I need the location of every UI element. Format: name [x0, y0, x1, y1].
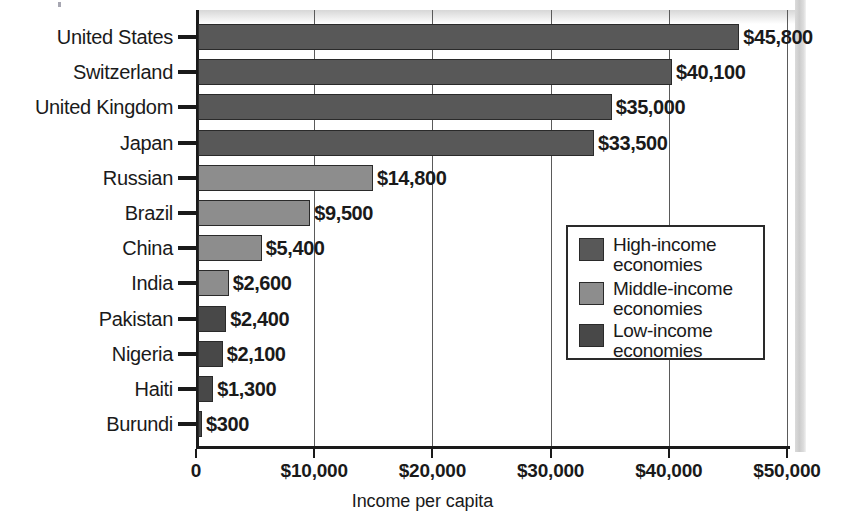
bar-value-burundi: $300: [206, 411, 249, 437]
category-tick: [178, 352, 197, 356]
x-tick-label-5: $50,000: [753, 460, 820, 482]
bar-nigeria: [198, 341, 223, 367]
legend-swatch-low-income-icon: [579, 324, 604, 347]
category-tick: [178, 422, 197, 426]
category-label-japan: Japan: [120, 130, 173, 156]
x-tick-5: [786, 449, 788, 458]
bar-row: Japan$33,500: [0, 130, 845, 156]
x-tick-label-0: 0: [191, 460, 201, 482]
bar-value-pakistan: $2,400: [230, 306, 289, 332]
bar-china: [198, 235, 262, 261]
category-tick: [178, 387, 197, 391]
bar-row: Burundi$300: [0, 411, 845, 437]
bar-united-states: [198, 24, 739, 50]
category-label-haiti: Haiti: [134, 376, 173, 402]
category-tick: [178, 70, 197, 74]
category-tick: [178, 281, 197, 285]
x-axis-line: [196, 446, 790, 449]
category-label-pakistan: Pakistan: [99, 306, 173, 332]
category-label-switzerland: Switzerland: [73, 59, 173, 85]
legend-label-high-income: High-income economies: [613, 235, 716, 275]
category-label-china: China: [122, 235, 173, 261]
legend-item-high-income: High-income economies: [579, 235, 765, 275]
x-tick-4: [668, 449, 670, 458]
category-tick: [178, 35, 197, 39]
legend-label-low-income: Low-income economies: [613, 321, 712, 361]
bar-value-united-kingdom: $35,000: [616, 94, 686, 120]
bar-value-china: $5,400: [266, 235, 325, 261]
bar-row: Haiti$1,300: [0, 376, 845, 402]
category-label-russian: Russian: [103, 165, 173, 191]
bar-brazil: [198, 200, 310, 226]
x-tick-label-2: $20,000: [399, 460, 466, 482]
x-tick-label-3: $30,000: [517, 460, 584, 482]
bar-value-japan: $33,500: [598, 130, 668, 156]
category-tick: [178, 141, 197, 145]
x-tick-3: [550, 449, 552, 458]
scan-artifact-top: [196, 10, 796, 24]
income-per-capita-bar-chart: 0$10,000$20,000$30,000$40,000$50,000 Uni…: [0, 0, 845, 520]
category-label-united-kingdom: United Kingdom: [35, 94, 173, 120]
bar-value-brazil: $9,500: [314, 200, 373, 226]
category-tick: [178, 176, 197, 180]
bar-row: Switzerland$40,100: [0, 59, 845, 85]
category-label-burundi: Burundi: [106, 411, 173, 437]
scan-artifact-speck: [58, 2, 61, 7]
bar-russian: [198, 165, 373, 191]
bar-value-nigeria: $2,100: [227, 341, 286, 367]
bar-value-india: $2,600: [233, 270, 292, 296]
bar-row: Russian$14,800: [0, 165, 845, 191]
legend-label-middle-income: Middle-income economies: [613, 279, 733, 319]
bar-value-switzerland: $40,100: [676, 59, 746, 85]
x-tick-0: [195, 449, 197, 458]
bar-row: United Kingdom$35,000: [0, 94, 845, 120]
legend-swatch-middle-income-icon: [579, 282, 604, 305]
legend-item-middle-income: Middle-income economies: [579, 279, 765, 319]
bar-india: [198, 270, 229, 296]
x-axis-title: Income per capita: [0, 491, 845, 512]
category-label-brazil: Brazil: [125, 200, 173, 226]
chart-legend: High-income economies Middle-income econ…: [566, 225, 765, 360]
category-tick: [178, 317, 197, 321]
bar-burundi: [198, 411, 202, 437]
bar-haiti: [198, 376, 213, 402]
bar-switzerland: [198, 59, 672, 85]
bar-value-haiti: $1,300: [217, 376, 276, 402]
category-tick: [178, 211, 197, 215]
bar-value-united-states: $45,800: [743, 24, 813, 50]
bar-value-russian: $14,800: [377, 165, 447, 191]
bar-pakistan: [198, 306, 226, 332]
category-tick: [178, 105, 197, 109]
category-label-united-states: United States: [57, 24, 173, 50]
bar-row: Brazil$9,500: [0, 200, 845, 226]
x-tick-1: [313, 449, 315, 458]
x-tick-2: [431, 449, 433, 458]
category-label-nigeria: Nigeria: [112, 341, 173, 367]
category-tick: [178, 246, 197, 250]
legend-item-low-income: Low-income economies: [579, 321, 765, 361]
x-tick-label-4: $40,000: [635, 460, 702, 482]
bar-united-kingdom: [198, 94, 612, 120]
category-label-india: India: [131, 270, 173, 296]
legend-swatch-high-income-icon: [579, 238, 604, 261]
bar-row: United States$45,800: [0, 24, 845, 50]
x-tick-label-1: $10,000: [281, 460, 348, 482]
bar-japan: [198, 130, 594, 156]
